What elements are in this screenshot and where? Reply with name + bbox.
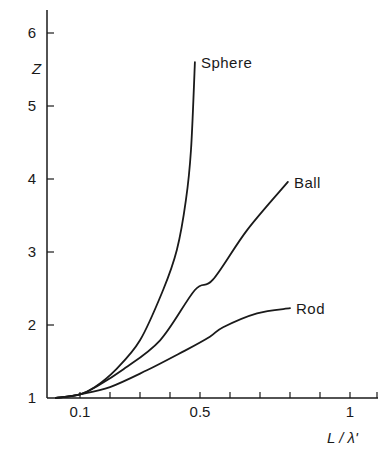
y-axis-label: Z (31, 60, 42, 77)
series-label-ball: Ball (294, 174, 321, 191)
x-axis-label: L / λ' (327, 429, 359, 446)
x-ticks: 0.10.51 (70, 392, 377, 420)
y-tick-label: 6 (28, 24, 36, 41)
y-ticks: 123456 (28, 24, 54, 406)
x-tick-label: 0.5 (190, 403, 211, 420)
x-tick-label: 1 (346, 403, 354, 420)
curve-ball (56, 182, 288, 398)
y-tick-label: 4 (28, 170, 36, 187)
series-label-sphere: Sphere (201, 54, 252, 71)
curves: SphereBallRod (56, 54, 325, 398)
y-tick-label: 2 (28, 316, 36, 333)
curve-sphere (56, 62, 195, 398)
chart: 123456 0.10.51 Z L / λ' SphereBallRod (0, 0, 386, 455)
x-tick-label: 0.1 (70, 403, 91, 420)
series-label-rod: Rod (296, 300, 325, 317)
y-tick-label: 3 (28, 243, 36, 260)
y-tick-label: 5 (28, 97, 36, 114)
y-tick-label: 1 (28, 389, 36, 406)
